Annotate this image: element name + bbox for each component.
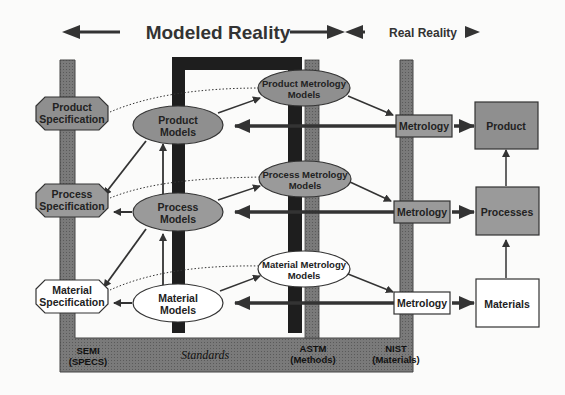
model-process[interactable]: Process Models [133, 193, 223, 231]
real-reality-label: Real Reality [389, 26, 457, 40]
model-label: Models [160, 213, 196, 225]
model-to-spec-arrows [114, 212, 132, 303]
left-arrow-icon [62, 25, 120, 39]
astm-sublabel: (Methods) [290, 354, 335, 365]
model-material[interactable]: Material Models [133, 284, 223, 322]
model-label: Process [158, 201, 199, 213]
metrology-model-label: Material Metrology [262, 259, 347, 270]
diagram-canvas: Modeled Reality Real Reality SEMI (SPECS… [0, 0, 565, 395]
semi-sublabel: (SPECS) [69, 356, 108, 367]
spec-label: Specification [39, 113, 104, 125]
nist-sublabel: (Materials) [372, 354, 420, 365]
reality-materials[interactable]: Materials [476, 279, 539, 327]
semi-label: SEMI [76, 345, 99, 356]
spec-label: Material [52, 284, 92, 296]
metrology-label: Metrology [397, 297, 447, 309]
metrology-model-process[interactable]: Process Metrology Models [259, 161, 351, 197]
spec-label: Specification [39, 296, 104, 308]
model-label: Product [158, 114, 198, 126]
double-arrow-icon [290, 25, 365, 39]
metrology-model-product[interactable]: Product Metrology Models [258, 70, 350, 106]
metrology-box-material[interactable]: Metrology [394, 292, 450, 314]
spec-process[interactable]: Process Specification [36, 184, 108, 217]
reality-label: Processes [481, 206, 534, 218]
metrology-box-product[interactable]: Metrology [396, 115, 452, 137]
model-label: Material [158, 292, 198, 304]
model-product[interactable]: Product Models [133, 106, 223, 144]
spec-label: Process [52, 188, 93, 200]
metrology-model-label: Models [288, 270, 321, 281]
spec-label: Product [52, 101, 92, 113]
nist-label: NIST [385, 343, 407, 354]
metrology-model-label: Process Metrology [263, 169, 349, 180]
measure-arrows [452, 126, 474, 303]
spec-product[interactable]: Product Specification [36, 97, 108, 130]
modeled-reality-label: Modeled Reality [146, 22, 291, 43]
reality-label: Product [486, 120, 526, 132]
reality-processes[interactable]: Processes [476, 187, 539, 235]
header: Modeled Reality Real Reality [62, 22, 480, 43]
metrology-model-label: Models [289, 180, 322, 191]
right-arrow-icon [465, 26, 480, 38]
metrology-model-label: Models [288, 89, 321, 100]
model-label: Models [160, 304, 196, 316]
metrology-label: Metrology [399, 120, 449, 132]
metrology-model-label: Product Metrology [262, 78, 347, 89]
model-label: Models [160, 126, 196, 138]
reality-product[interactable]: Product [475, 102, 538, 149]
metrology-label: Metrology [397, 206, 447, 218]
astm-label: ASTM [300, 343, 327, 354]
metrology-model-material[interactable]: Material Metrology Models [258, 251, 350, 287]
spec-material[interactable]: Material Specification [36, 280, 108, 313]
reality-label: Materials [484, 298, 530, 310]
metrology-box-process[interactable]: Metrology [394, 201, 450, 223]
standards-label: Standards [181, 348, 230, 362]
spec-label: Specification [39, 200, 104, 212]
